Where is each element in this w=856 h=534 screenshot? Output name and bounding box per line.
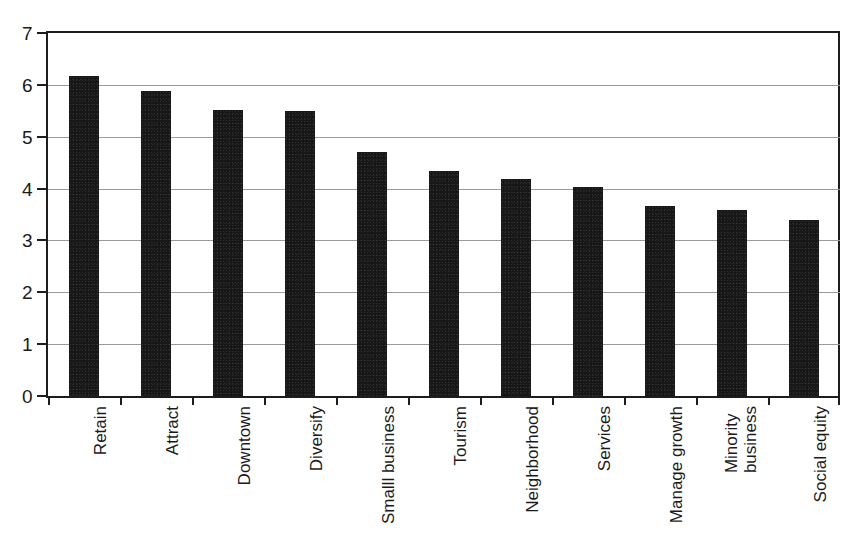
bar [573,187,603,396]
bar [357,152,387,396]
x-axis-label-line: Attract [163,406,182,455]
x-axis-label: Attract [163,406,182,455]
x-axis-label: Social equity [811,406,830,502]
x-axis-label-line: Manage growth [667,406,686,523]
x-axis-tick [336,396,338,405]
x-axis-label-line: Minority [722,414,741,474]
x-axis-tick [408,396,410,405]
x-axis-label-line: Tourism [451,406,470,466]
x-axis-tick [120,396,122,405]
y-axis-tick-label: 5 [22,127,28,146]
y-axis-tick-label: 4 [22,179,28,198]
y-axis-tick [37,136,46,138]
y-axis-tick [37,32,46,34]
bar [285,111,315,396]
y-axis-tick-label: 2 [22,283,28,302]
plot-right-border [838,31,840,398]
bar [645,206,675,396]
x-axis-tick [768,396,770,405]
y-axis-tick-label: 1 [22,335,28,354]
x-axis-label: Minoritybusiness [722,406,760,473]
x-axis-tick [48,396,50,405]
x-axis-tick [696,396,698,405]
x-axis-label-line: Social equity [811,406,830,502]
x-axis-label-line: Services [595,406,614,471]
y-axis-tick [37,395,46,397]
y-axis-tick [37,188,46,190]
x-axis-line [46,396,840,398]
x-axis-label: Downtown [235,406,254,485]
bar [789,220,819,396]
bar [429,171,459,396]
y-axis-tick [37,84,46,86]
x-axis-label: Diversify [307,406,326,471]
bar [141,91,171,396]
x-axis-label-line: Smalll business [379,406,398,524]
x-axis-tick [624,396,626,405]
y-axis-tick-label: 0 [22,387,28,406]
x-axis-label-line: Neighborhood [523,406,542,513]
bar [69,76,99,396]
bar-chart-figure: 01234567 RetainAttractDowntownDiversifyS… [0,0,856,534]
y-axis-tick [37,291,46,293]
x-axis-tick [192,396,194,405]
x-axis-tick [480,396,482,405]
x-axis-label: Services [595,406,614,471]
plot-top-border [46,31,840,33]
y-axis-tick-label: 3 [22,231,28,250]
bar [717,210,747,396]
y-axis-tick [37,239,46,241]
x-axis-tick [552,396,554,405]
x-axis-label: Manage growth [667,406,686,523]
y-axis-tick-label: 6 [22,75,28,94]
x-axis-label: Tourism [451,406,470,466]
y-axis-line [46,31,48,398]
x-axis-label: Retain [91,406,110,455]
x-axis-label: Neighborhood [523,406,542,513]
bar [213,110,243,396]
plot-area: 01234567 [48,33,840,396]
y-axis-tick-label: 7 [22,24,28,43]
x-axis-tick [264,396,266,405]
x-axis-label-line: Downtown [235,406,254,485]
gridline [48,85,840,86]
x-axis-label-line: business [741,406,760,473]
x-axis-tick [838,396,840,405]
x-axis-label-line: Retain [91,406,110,455]
x-axis-label-line: Diversify [307,406,326,471]
bar [501,179,531,396]
x-axis-label: Smalll business [379,406,398,524]
y-axis-tick [37,343,46,345]
